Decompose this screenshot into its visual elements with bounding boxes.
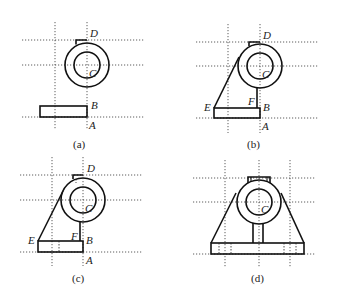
panel-c: D C E F B A (c) <box>20 157 143 285</box>
point-label-f: F <box>247 95 255 107</box>
panel-b: D C E F B A (b) <box>196 24 318 151</box>
base-plate <box>38 241 83 252</box>
base-plate <box>40 106 87 117</box>
support-side-line <box>214 57 239 108</box>
point-label-b: B <box>263 101 270 113</box>
point-label-c: C <box>261 203 269 215</box>
right-support-line <box>281 193 304 243</box>
bearing-support-drawing-steps: D C B A (a) D C E F B A (b) <box>0 0 339 302</box>
point-label-b: B <box>91 99 98 111</box>
point-label-e: E <box>27 234 35 246</box>
caption-a: (a) <box>73 138 86 151</box>
base-hidden-lines <box>219 243 296 254</box>
point-label-a: A <box>88 119 96 131</box>
caption-b: (b) <box>247 138 260 151</box>
panel-d: C (d) <box>193 160 316 285</box>
point-label-b: B <box>86 234 93 246</box>
point-label-a: A <box>85 254 93 266</box>
point-label-c: C <box>89 67 97 79</box>
point-label-d: D <box>262 29 271 41</box>
left-support-line <box>211 193 236 243</box>
caption-d: (d) <box>251 272 264 285</box>
caption-c: (c) <box>72 272 85 285</box>
point-label-c: C <box>262 68 270 80</box>
point-label-c: C <box>85 202 93 214</box>
panel-a: D C B A (a) <box>22 22 145 151</box>
point-label-a: A <box>261 120 269 132</box>
support-side-line <box>38 191 63 241</box>
base-plate <box>214 108 260 118</box>
point-label-f: F <box>70 230 78 242</box>
point-label-d: D <box>86 162 95 174</box>
point-label-d: D <box>89 27 98 39</box>
center-rib <box>253 223 263 243</box>
point-label-e: E <box>203 101 211 113</box>
